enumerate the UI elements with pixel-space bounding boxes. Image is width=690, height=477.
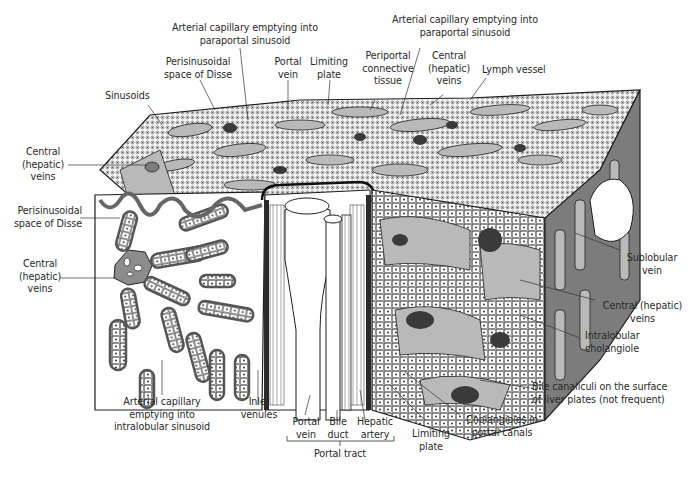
label-intralobular-cholangiole: Intralobular cholangiole [585, 330, 640, 355]
label-inlet-venules: Inlet venules [238, 396, 280, 421]
liver-lobule-diagram: Arterial capillary emptying into parapor… [0, 0, 690, 477]
label-periportal-connective-tissue: Periportal connective tissue [358, 50, 418, 88]
label-central-hepatic-veins-right: Central (hepatic) veins [600, 300, 685, 325]
label-central-hepatic-veins-top: Central (hepatic) veins [424, 50, 474, 88]
label-bile-duct: Bile duct [322, 416, 354, 441]
right-front-face [372, 190, 545, 440]
label-limiting-plate-top: Limiting plate [304, 56, 354, 81]
label-central-hepatic-veins-left-upper: Central (hepatic) veins [18, 146, 68, 184]
label-arterial-capillary-paraportal-left: Arterial capillary emptying into parapor… [170, 22, 320, 47]
label-arterial-capillary-paraportal-right: Arterial capillary emptying into parapor… [390, 14, 540, 39]
label-lymph-vessel: Lymph vessel [482, 64, 546, 77]
label-sublobular-vein: Sublobular vein [622, 252, 682, 277]
label-perisinusoidal-space-left: Perisinusoidal space of Disse [5, 205, 82, 230]
left-front-face [95, 192, 265, 410]
label-arterial-capillary-intralobular: Arterial capillary emptying into intralo… [112, 396, 212, 434]
label-portal-vein-top: Portal vein [268, 56, 308, 81]
cropped-caption-line [40, 468, 660, 472]
label-perisinusoidal-space-top: Perisinusoidal space of Disse [163, 56, 233, 81]
portal-tract [262, 182, 375, 420]
label-sinusoids: Sinusoids [105, 90, 150, 103]
label-central-hepatic-veins-left-lower: Central (hepatic) veins [15, 258, 65, 296]
label-portal-tract: Portal tract [300, 448, 380, 461]
label-bile-canaliculi: Bile canaliculi on the surface of liver … [532, 381, 667, 406]
label-cholangioles-portal-canals: Cholangioles in portal canals [462, 414, 542, 439]
label-portal-vein-bottom: Portal vein [286, 416, 326, 441]
label-hepatic-artery: Hepatic artery [352, 416, 398, 441]
label-limiting-plate-bottom: Limiting plate [408, 428, 454, 453]
